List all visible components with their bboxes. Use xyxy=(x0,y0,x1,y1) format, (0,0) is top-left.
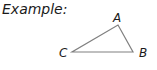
triangle-diagram: A B C xyxy=(0,0,157,70)
vertex-label-a: A xyxy=(112,11,121,25)
vertex-label-c: C xyxy=(59,46,68,60)
triangle-abc xyxy=(72,25,133,52)
vertex-label-b: B xyxy=(139,46,147,60)
